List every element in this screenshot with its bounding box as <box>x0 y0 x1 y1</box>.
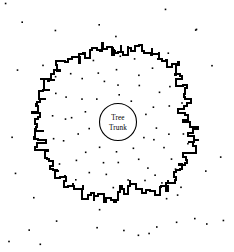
soil-dot <box>55 30 57 32</box>
soil-dot <box>134 58 136 60</box>
soil-dot <box>70 73 72 75</box>
soil-dot <box>88 128 90 130</box>
soil-dot <box>21 21 23 23</box>
soil-dot <box>103 162 105 164</box>
soil-dot <box>8 241 10 243</box>
soil-dot <box>65 118 67 120</box>
soil-dot <box>220 156 222 158</box>
soil-dot <box>71 117 73 119</box>
soil-dot <box>115 36 117 38</box>
soil-dot <box>75 179 77 181</box>
soil-dot <box>17 69 19 71</box>
trunk-label-line1: Tree <box>111 114 124 122</box>
soil-dot <box>163 147 165 149</box>
soil-dot <box>139 85 141 87</box>
soil-dot <box>40 244 42 246</box>
soil-dot <box>81 98 83 100</box>
soil-dot <box>85 111 87 113</box>
soil-dot <box>55 93 57 95</box>
soil-dot <box>183 133 185 135</box>
soil-dot <box>118 94 120 96</box>
soil-dot <box>143 137 145 139</box>
soil-dot <box>52 115 54 117</box>
soil-dot <box>11 137 13 139</box>
soil-dot <box>15 173 17 175</box>
soil-dot <box>223 220 225 222</box>
soil-dot <box>148 233 150 235</box>
soil-dot <box>118 162 120 164</box>
soil-dot <box>195 29 197 31</box>
tree-trunk-circle <box>100 104 137 141</box>
soil-dot <box>168 133 170 135</box>
soil-dot <box>147 167 149 169</box>
soil-dot <box>138 159 140 161</box>
soil-dot <box>55 76 57 78</box>
soil-dot <box>144 180 146 182</box>
soil-dot <box>117 84 119 86</box>
soil-dot <box>171 158 173 160</box>
soil-dot <box>123 230 125 232</box>
soil-dot <box>165 9 167 11</box>
soil-dot <box>127 179 129 181</box>
soil-dot <box>28 229 30 231</box>
soil-dot <box>116 69 118 71</box>
soil-dot <box>113 187 115 189</box>
soil-dot <box>53 138 55 140</box>
soil-dot <box>159 92 161 94</box>
trunk-label-line2: Trunk <box>109 124 127 132</box>
diagram-canvas: Tree Trunk <box>0 0 234 252</box>
soil-dot <box>206 223 208 225</box>
soil-dot <box>166 198 168 200</box>
soil-dot <box>116 151 118 153</box>
soil-dot <box>96 227 98 229</box>
soil-dot <box>98 24 100 26</box>
soil-dot <box>133 148 135 150</box>
soil-dot <box>131 100 133 102</box>
soil-dot <box>56 220 58 222</box>
soil-dot <box>181 102 183 104</box>
soil-dot <box>96 98 98 100</box>
soil-dot <box>153 106 155 108</box>
soil-dot <box>138 75 140 77</box>
soil-dot <box>63 140 65 142</box>
soil-dot <box>161 182 163 184</box>
soil-dot <box>89 172 91 174</box>
soil-dot <box>77 133 79 135</box>
soil-dot <box>120 56 122 58</box>
soil-dot <box>42 65 44 67</box>
soil-dot <box>33 197 35 199</box>
soil-dot <box>180 187 182 189</box>
soil-dot <box>145 114 147 116</box>
soil-dot <box>169 105 171 107</box>
soil-dot <box>93 60 95 62</box>
soil-dot <box>76 160 78 162</box>
soil-dot <box>138 235 140 237</box>
soil-dot <box>169 86 171 88</box>
soil-dot <box>99 147 101 149</box>
soil-dot <box>211 65 213 67</box>
soil-dot <box>194 218 196 220</box>
soil-dot <box>5 3 7 5</box>
soil-dot <box>104 81 106 83</box>
soil-dot <box>152 67 154 69</box>
soil-dot <box>156 127 158 129</box>
soil-dot <box>85 152 87 154</box>
soil-dot <box>65 96 67 98</box>
soil-dot <box>205 170 207 172</box>
soil-dot <box>154 174 156 176</box>
soil-dot <box>106 174 108 176</box>
soil-dot <box>59 163 61 165</box>
soil-dot <box>168 52 170 54</box>
soil-dot <box>176 222 178 224</box>
soil-dot <box>98 72 100 74</box>
tree-root-zone-diagram: Tree Trunk <box>0 0 234 252</box>
soil-dot <box>81 78 83 80</box>
soil-dot <box>156 226 158 228</box>
soil-dot <box>177 194 179 196</box>
soil-dot <box>187 143 189 145</box>
soil-dot <box>153 139 155 141</box>
soil-dot <box>99 209 101 211</box>
